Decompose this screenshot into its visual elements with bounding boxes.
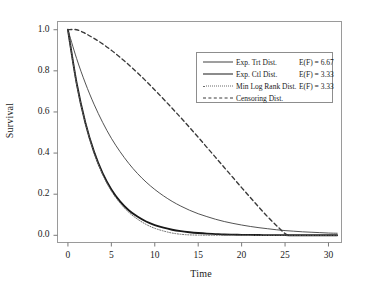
y-tick-label: 0.6 xyxy=(24,106,50,116)
y-tick-label: 0.8 xyxy=(24,65,50,75)
legend-key-solid-thick-icon xyxy=(203,69,233,79)
legend-label: Exp. Ctl Dist. xyxy=(236,70,299,79)
legend-value: E(F) = 3.33 xyxy=(299,70,334,79)
legend-item-min-log-rank: Min Log Rank Dist. E(F) = 3.33 xyxy=(197,80,332,92)
legend-item-exp-ctl: Exp. Ctl Dist. E(F) = 3.33 xyxy=(197,68,332,80)
x-tick-label: 0 xyxy=(55,250,81,260)
survival-chart-figure: Survival Time Exp. Trt Dist. E(F) = 6.67… xyxy=(0,0,371,296)
x-tick-label: 20 xyxy=(229,250,255,260)
y-axis-label: Survival xyxy=(4,91,15,151)
legend-key-dashed-icon xyxy=(203,93,233,103)
legend-label: Min Log Rank Dist. xyxy=(236,82,299,91)
y-tick-label: 0.4 xyxy=(24,147,50,157)
y-tick-label: 0.0 xyxy=(24,229,50,239)
legend-label: Censoring Dist. xyxy=(236,94,299,103)
x-tick-label: 25 xyxy=(272,250,298,260)
legend-value: E(F) = 3.33 xyxy=(299,82,334,91)
legend-key-dotted-icon xyxy=(203,81,233,91)
x-tick-label: 10 xyxy=(142,250,168,260)
y-tick-label: 0.2 xyxy=(24,188,50,198)
x-tick-label: 5 xyxy=(98,250,124,260)
legend-key-solid-thin-icon xyxy=(203,57,233,67)
legend-item-censoring: Censoring Dist. xyxy=(197,92,332,104)
chart-legend: Exp. Trt Dist. E(F) = 6.67 Exp. Ctl Dist… xyxy=(196,52,333,103)
legend-item-exp-trt: Exp. Trt Dist. E(F) = 6.67 xyxy=(197,56,332,68)
legend-label: Exp. Trt Dist. xyxy=(236,58,299,67)
x-axis-label: Time xyxy=(141,268,261,279)
x-tick-label: 15 xyxy=(185,250,211,260)
y-tick-label: 1.0 xyxy=(24,24,50,34)
x-tick-label: 30 xyxy=(315,250,341,260)
legend-value: E(F) = 6.67 xyxy=(299,58,334,67)
